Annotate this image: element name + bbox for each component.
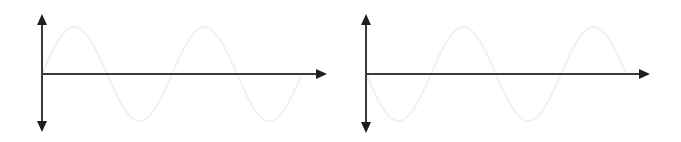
- right-panel-plot: [340, 0, 681, 142]
- x-axis-right-arrowhead-icon: [639, 69, 650, 79]
- left-panel-plot: [0, 0, 340, 142]
- y-axis-up-arrowhead-icon: [37, 14, 47, 25]
- x-axis-right-arrowhead-icon: [316, 69, 327, 79]
- y-axis-down-arrowhead-icon: [37, 121, 47, 132]
- figure-root: [0, 0, 681, 142]
- right-panel: [340, 0, 681, 142]
- left-axes-group: [37, 14, 327, 132]
- y-axis-down-arrowhead-icon: [361, 122, 371, 133]
- right-axes-group: [361, 14, 650, 133]
- left-panel: [0, 0, 340, 142]
- y-axis-up-arrowhead-icon: [361, 14, 371, 25]
